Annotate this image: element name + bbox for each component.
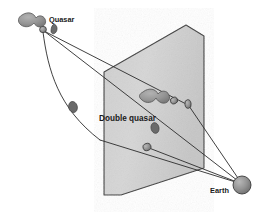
earth-sphere	[233, 176, 251, 194]
ray-lower-curved	[43, 32, 100, 140]
quasar-label: Quasar	[49, 15, 75, 24]
earth-group	[233, 176, 251, 194]
sky-plane	[104, 25, 204, 195]
sky-plane-group	[104, 25, 204, 195]
double-quasar-label: Double quasar	[99, 114, 157, 123]
quasar-companion-blob	[51, 24, 57, 34]
lens-region	[67, 101, 78, 114]
diagram-canvas: Quasar Double quasar Earth	[0, 0, 274, 218]
quasar-source-point	[40, 26, 47, 32]
lensing-diagram: Quasar Double quasar Earth	[0, 0, 274, 218]
quasar-host-galaxy	[18, 13, 45, 27]
lensing-galaxy	[67, 101, 78, 114]
earth-label: Earth	[210, 186, 229, 195]
